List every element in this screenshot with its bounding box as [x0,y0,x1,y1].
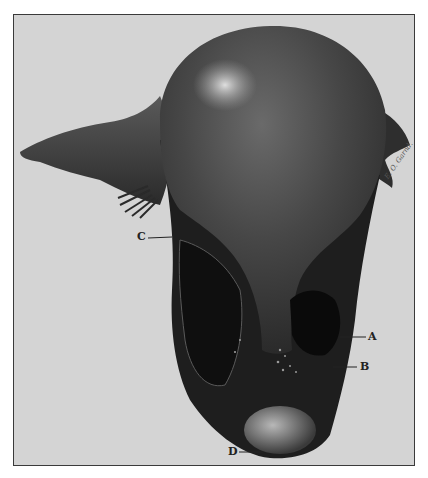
specimen-illustration [0,0,428,478]
label-c: C [137,230,146,243]
fundus-highlight [193,59,257,111]
label-b: B [360,360,369,373]
label-d: D [228,445,238,458]
label-a: A [368,330,377,343]
leader-line-c [148,237,172,238]
fallopian-tube-left [20,96,172,205]
cervix [244,406,316,454]
